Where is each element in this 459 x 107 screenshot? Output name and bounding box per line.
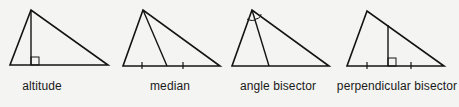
angle-bisector-triangle	[232, 10, 329, 66]
right-angle-mark-icon	[31, 57, 39, 65]
right-angle-mark-icon	[388, 58, 396, 66]
label-altitude: altitude	[22, 79, 62, 93]
median-triangle	[123, 10, 220, 66]
label-perpendicular-bisector: perpendicular bisector	[337, 79, 457, 93]
altitude-triangle	[10, 10, 108, 65]
angle-bisector-segment	[252, 10, 269, 66]
label-angle-bisector: angle bisector	[240, 79, 316, 93]
label-median: median	[150, 79, 190, 93]
